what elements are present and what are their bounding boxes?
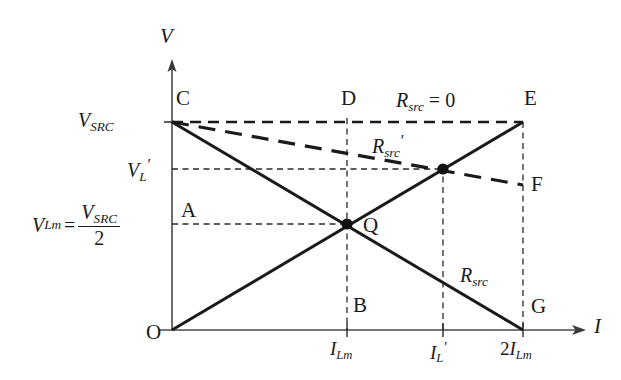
curve-rsrc-sub: src <box>472 274 488 289</box>
x-tick-label-ilm: ILm <box>330 339 352 361</box>
point-label-d: D <box>341 88 356 109</box>
curve-label-rsrc-prime: Rsrc′ <box>372 133 403 159</box>
curve-rsrc-prime-prime: ′ <box>400 132 404 149</box>
curve-rsrc-prime-sub: src <box>384 145 400 160</box>
point-label-c: C <box>176 88 190 109</box>
point-label-f: F <box>531 174 543 195</box>
y-tick-vlprime-prime: ′ <box>147 156 151 173</box>
point-label-e: E <box>524 88 537 109</box>
y-equation-denominator: 2 <box>78 227 120 248</box>
y-equation-numerator-sub: SRC <box>94 211 117 226</box>
point-label-g: G <box>531 296 546 317</box>
point-label-b: B <box>353 295 367 316</box>
x-tick-ilm-sub: Lm <box>336 348 352 362</box>
curve-rsrc-base: R <box>460 264 472 286</box>
y-tick-vlprime-base: V <box>127 159 139 181</box>
diagram-canvas <box>0 0 621 380</box>
curve-label-rsrc-zero: Rsrc = 0 <box>396 90 455 113</box>
y-tick-vsrc-base: V <box>78 109 90 131</box>
y-equation-equals: = <box>61 215 78 235</box>
marker-point-vlprime <box>437 163 448 174</box>
y-equation-lhs-base: V <box>32 215 44 235</box>
y-equation-numerator: VSRC <box>78 202 120 227</box>
x-tick-2ilm-prefix: 2 <box>500 338 510 359</box>
y-equation-numerator-base: V <box>81 201 93 223</box>
curve-rsrc-zero-base: R <box>396 89 408 111</box>
point-label-a: A <box>181 200 196 221</box>
x-tick-label-2ilm: 2ILm <box>500 339 532 361</box>
y-axis-label: V <box>160 26 173 47</box>
axes-group <box>160 59 586 335</box>
curve-rsrc-zero-suffix: = 0 <box>424 89 455 111</box>
y-tick-vsrc-sub: SRC <box>90 119 113 134</box>
y-tick-label-vlprime: VL′ <box>127 157 150 183</box>
curve-label-rsrc: Rsrc <box>460 265 488 288</box>
curve-rsrc-zero-sub: src <box>408 99 424 114</box>
point-label-o: O <box>146 322 161 343</box>
y-equation-fraction: VSRC 2 <box>78 202 120 248</box>
y-tick-vlprime-sub: L <box>139 169 146 184</box>
point-label-q: Q <box>363 215 378 236</box>
x-tick-ilprime-prime: ′ <box>443 338 446 355</box>
load-line-figure: V I O A B C D E F G Q VSRC VL′ VLm = VSR… <box>0 0 621 380</box>
y-tick-label-vsrc: VSRC <box>78 110 114 133</box>
curve-rsrc-prime-base: R <box>372 135 384 157</box>
x-tick-2ilm-sub: Lm <box>516 348 532 362</box>
y-equation-lhs-sub: Lm <box>44 218 61 231</box>
x-axis-label: I <box>594 316 601 337</box>
x-tick-label-ilprime: IL′ <box>430 339 447 365</box>
y-equation-vlm: VLm = VSRC 2 <box>32 202 120 248</box>
marker-point-q <box>341 218 352 229</box>
